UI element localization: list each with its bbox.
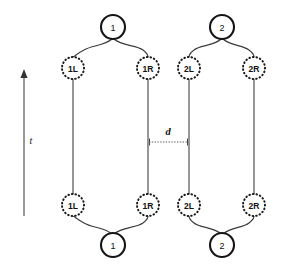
node-2L-bottom-label: 2L — [184, 201, 194, 211]
vertex-bottom-1: 1 — [101, 233, 125, 257]
node-2R-top: 2R — [243, 57, 265, 79]
node-2L-bottom: 2L — [178, 194, 200, 216]
node-1L-top-label: 1L — [68, 64, 78, 74]
node-1R-top-label: 1R — [143, 64, 154, 74]
vertex-bottom-1-label: 1 — [110, 241, 115, 251]
vertex-top-1-label: 1 — [110, 23, 115, 33]
node-2L-top: 2L — [178, 57, 200, 79]
group-2: 2 2 2L 2R 2L — [178, 15, 265, 257]
node-2R-bottom-label: 2R — [249, 201, 260, 211]
node-1L-bottom: 1L — [62, 194, 84, 216]
vertex-bottom-2-label: 2 — [219, 241, 224, 251]
fork-bottom-right-2 — [223, 216, 254, 234]
separation-dimension-label: d — [165, 126, 171, 137]
node-2L-top-label: 2L — [184, 64, 194, 74]
worldline-diagram: t 1 1 1L — [0, 0, 290, 271]
node-1R-top: 1R — [137, 57, 159, 79]
group-1: 1 1 1L 1R 1L — [62, 15, 159, 257]
node-2R-top-label: 2R — [249, 64, 260, 74]
node-1R-bottom-label: 1R — [143, 201, 154, 211]
fork-bottom-left-2 — [189, 216, 221, 234]
vertex-top-1: 1 — [101, 15, 125, 39]
node-2R-bottom: 2R — [243, 194, 265, 216]
time-axis-arrowhead — [21, 69, 28, 78]
separation-dimension: d — [149, 126, 188, 146]
vertex-top-2: 2 — [210, 15, 234, 39]
fork-top-right-2 — [223, 39, 254, 57]
time-axis-label: t — [30, 135, 33, 146]
fork-top-left-2 — [189, 39, 221, 57]
fork-top-right-1 — [114, 39, 148, 57]
fork-bottom-right-1 — [114, 216, 148, 234]
node-1L-bottom-label: 1L — [68, 201, 78, 211]
fork-bottom-left-1 — [73, 216, 112, 234]
vertex-bottom-2: 2 — [210, 233, 234, 257]
time-axis: t — [21, 69, 33, 216]
fork-top-left-1 — [73, 39, 112, 57]
node-1R-bottom: 1R — [137, 194, 159, 216]
node-1L-top: 1L — [62, 57, 84, 79]
vertex-top-2-label: 2 — [219, 23, 224, 33]
